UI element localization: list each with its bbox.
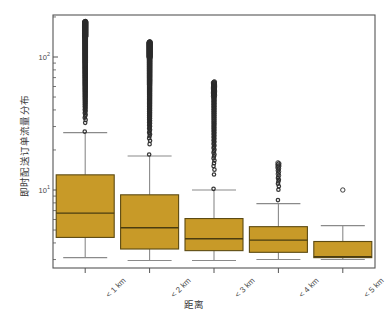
box-body	[121, 195, 179, 249]
y-tick-mantissa: 10	[39, 53, 47, 62]
box-body	[314, 241, 372, 257]
figure-background	[0, 0, 389, 319]
y-tick-label: 102	[26, 51, 50, 62]
x-axis-title: 距离	[0, 297, 389, 311]
boxplot-figure	[0, 0, 389, 319]
y-tick-mantissa: 10	[39, 186, 47, 195]
outlier-group	[83, 19, 88, 133]
y-axis-title: 即时配送订单流量分布	[17, 76, 31, 216]
y-tick-label: 101	[26, 184, 50, 195]
box-body	[56, 175, 114, 238]
y-tick-exponent: 1	[47, 184, 50, 190]
y-tick-exponent: 2	[47, 51, 50, 57]
box-body	[185, 219, 243, 251]
